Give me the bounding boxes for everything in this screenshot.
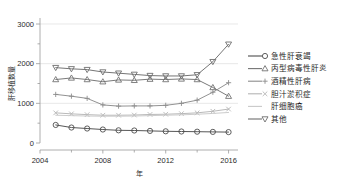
axes [36,18,238,154]
legend-item[interactable]: 胆汁淤积症 [248,89,311,99]
axis-titles: 年肝移植数量 [7,66,143,177]
data-series [53,42,232,135]
legend-item[interactable]: 酒精性肝病 [248,76,311,86]
x-axis-title: 年 [136,169,143,177]
legend-item[interactable]: 丙型病毒性肝炎 [248,63,327,73]
x-tick-label: 2004 [32,156,49,165]
legend-item[interactable]: 其他 [248,114,287,124]
series-path [56,125,229,132]
series-path [56,78,229,96]
marker-triangle-down [262,117,268,122]
marker-triangle-up [262,66,268,71]
x-tick-label: 2016 [220,156,237,165]
series-triangle-up [53,75,232,98]
legend: 急性肝衰竭丙型病毒性肝炎酒精性肝病胆汁淤积症肝细胞癌其他 [248,51,327,124]
y-tick-label: 0 [30,139,34,148]
legend-label: 胆汁淤积症 [271,89,311,99]
series-path [56,83,229,106]
series-circle [53,122,231,134]
tick-labels: 01000200030002004200820122016 [17,20,237,165]
line-chart: 01000200030002004200820122016 年肝移植数量 急性肝… [0,0,345,177]
series-path [56,44,229,76]
legend-label: 肝细胞癌 [271,101,303,111]
legend-label: 丙型病毒性肝炎 [271,63,327,73]
legend-item[interactable]: 肝细胞癌 [248,101,303,111]
y-tick-label: 1000 [17,99,34,108]
legend-label: 急性肝衰竭 [271,51,311,61]
y-axis-title: 肝移植数量 [7,66,16,101]
x-tick-label: 2012 [157,156,174,165]
legend-item[interactable]: 急性肝衰竭 [248,51,311,61]
chart-container: 01000200030002004200820122016 年肝移植数量 急性肝… [0,0,345,177]
legend-label: 其他 [271,114,287,124]
marker-circle [262,53,267,58]
x-tick-label: 2008 [95,156,112,165]
legend-label: 酒精性肝病 [271,76,311,86]
y-tick-label: 2000 [17,59,34,68]
grid-lines [40,24,238,103]
series-triangle-down [53,42,232,79]
series-plus [53,80,231,109]
y-tick-label: 3000 [17,20,34,29]
